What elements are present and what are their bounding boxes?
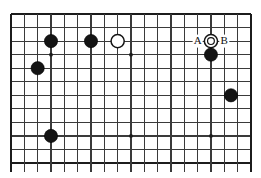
black-stone bbox=[84, 35, 97, 48]
black-stone bbox=[44, 35, 57, 48]
go-board-svg: AB bbox=[0, 0, 261, 178]
go-board-diagram: AB bbox=[0, 0, 261, 178]
stone-black bbox=[31, 62, 44, 75]
star-point bbox=[129, 134, 133, 138]
stone-black bbox=[44, 35, 57, 48]
black-stone bbox=[44, 129, 57, 142]
star-point bbox=[209, 134, 213, 138]
stone-white bbox=[204, 35, 217, 48]
stone-black bbox=[44, 129, 57, 142]
stone-black bbox=[224, 89, 237, 102]
stone-black bbox=[84, 35, 97, 48]
black-stone bbox=[224, 89, 237, 102]
stone-white bbox=[111, 35, 124, 48]
star-point bbox=[129, 53, 133, 57]
white-stone bbox=[204, 35, 217, 48]
black-stone bbox=[204, 48, 217, 61]
point-label-a: A bbox=[194, 34, 202, 46]
white-stone bbox=[111, 35, 124, 48]
stone-black bbox=[204, 48, 217, 61]
point-label-b: B bbox=[221, 34, 228, 46]
black-stone bbox=[31, 62, 44, 75]
star-point bbox=[49, 53, 53, 57]
